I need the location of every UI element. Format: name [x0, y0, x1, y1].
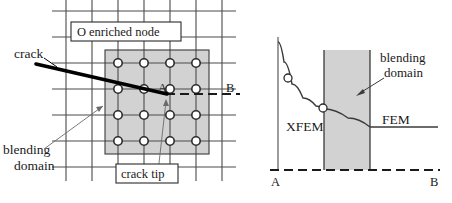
legend-enriched-node-marker: O: [77, 25, 86, 39]
enriched-node-4: [114, 85, 122, 93]
enriched-node-3: [192, 59, 200, 67]
enriched-node-7: [192, 85, 200, 93]
profile-node-marker-0: [284, 74, 292, 82]
enriched-node-9: [140, 111, 148, 119]
fem-label: FEM: [382, 112, 410, 127]
enriched-node-11: [192, 111, 200, 119]
blending-domain-label-line2: domain: [14, 158, 55, 173]
enriched-node-10: [166, 111, 174, 119]
legend-enriched-node-label: enriched node: [89, 25, 160, 39]
figure-root: O enriched node crack tip crack blending…: [0, 0, 452, 203]
blending-domain-leader-line: [44, 106, 103, 149]
mesh-panel: O enriched node crack tip crack blending…: [3, 0, 240, 183]
profile-node-marker-1: [319, 104, 327, 112]
enriched-node-15: [192, 137, 200, 145]
blending-domain-leader-arrowhead: [96, 106, 103, 112]
enriched-node-8: [114, 111, 122, 119]
crack-tip-label: crack tip: [121, 167, 164, 181]
enriched-node-2: [166, 59, 174, 67]
profile-node-marker-group: [284, 74, 327, 112]
profile-point-b-label: B: [430, 175, 438, 189]
mesh-point-a-label: A: [158, 81, 167, 95]
enriched-node-12: [114, 137, 122, 145]
profile-blending-label-line2: domain: [384, 65, 423, 80]
enriched-node-1: [140, 59, 148, 67]
profile-blending-label-line1: blending: [380, 50, 426, 65]
blending-domain-label-line1: blending: [3, 142, 50, 157]
xfem-label: XFEM: [286, 119, 324, 134]
enriched-node-0: [114, 59, 122, 67]
enriched-node-14: [166, 137, 174, 145]
figure-canvas: O enriched node crack tip crack blending…: [0, 0, 452, 203]
crack-tip-callout: crack tip: [116, 164, 178, 183]
enriched-node-6: [166, 85, 174, 93]
profile-panel: XFEM FEM blending domain A B: [270, 37, 440, 189]
enriched-node-13: [140, 137, 148, 145]
mesh-point-b-label: B: [226, 81, 234, 95]
profile-point-a-label: A: [271, 175, 280, 189]
legend-enriched-node: O enriched node: [71, 22, 181, 41]
crack-label: crack: [14, 46, 43, 61]
